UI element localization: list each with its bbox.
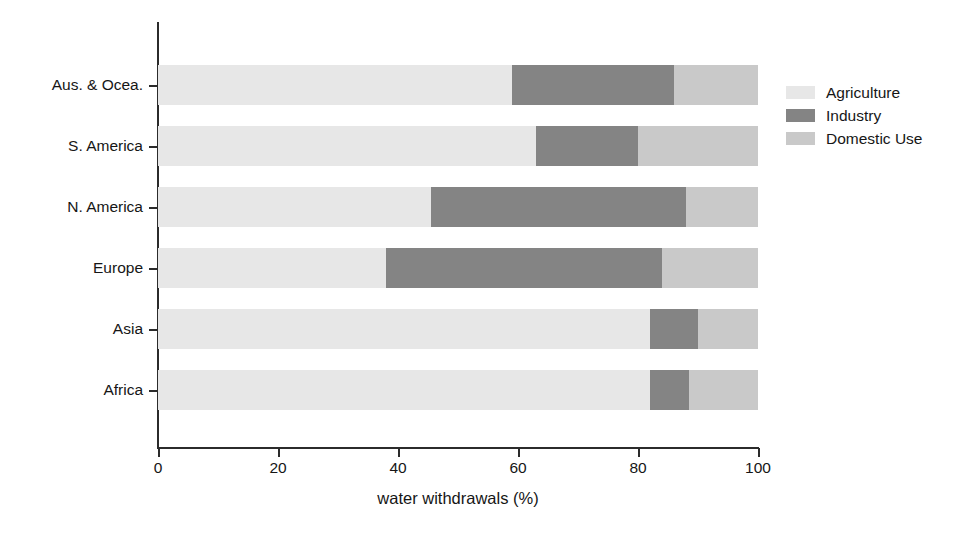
domestic-use-segment bbox=[674, 65, 758, 105]
y-axis-tick-label: S. America bbox=[0, 138, 143, 154]
legend-item: Domestic Use bbox=[786, 128, 922, 149]
domestic-use-segment bbox=[662, 248, 758, 288]
y-axis-tick-label: N. America bbox=[0, 199, 143, 215]
bar-row bbox=[158, 370, 758, 410]
agriculture-segment bbox=[158, 65, 512, 105]
water-withdrawals-chart: 020406080100 water withdrawals (%) Agric… bbox=[0, 0, 972, 537]
x-axis-tick bbox=[638, 448, 640, 457]
industry-segment bbox=[536, 126, 638, 166]
x-axis-tick-label: 20 bbox=[248, 460, 308, 476]
industry-segment bbox=[650, 370, 689, 410]
x-axis-tick-label: 80 bbox=[608, 460, 668, 476]
legend-label: Agriculture bbox=[826, 85, 900, 101]
industry-segment bbox=[512, 65, 674, 105]
legend-item: Industry bbox=[786, 105, 922, 126]
x-axis-title: water withdrawals (%) bbox=[158, 489, 758, 508]
domestic-use-segment bbox=[686, 187, 758, 227]
y-axis-tick-label: Europe bbox=[0, 260, 143, 276]
legend-item: Agriculture bbox=[786, 82, 922, 103]
industry-swatch bbox=[786, 109, 815, 122]
agriculture-segment bbox=[158, 370, 650, 410]
legend-label: Domestic Use bbox=[826, 131, 922, 147]
agriculture-segment bbox=[158, 248, 386, 288]
x-axis-tick bbox=[518, 448, 520, 457]
x-axis-tick-label: 100 bbox=[728, 460, 788, 476]
y-axis-tick-label: Asia bbox=[0, 321, 143, 337]
y-axis-tick-label: Africa bbox=[0, 382, 143, 398]
y-axis-tick bbox=[149, 85, 158, 87]
agriculture-segment bbox=[158, 309, 650, 349]
y-axis-tick-label: Aus. & Ocea. bbox=[0, 77, 143, 93]
y-axis-tick bbox=[149, 268, 158, 270]
agriculture-segment bbox=[158, 126, 536, 166]
domestic-use-segment bbox=[638, 126, 758, 166]
x-axis-tick bbox=[158, 448, 160, 457]
bar-row bbox=[158, 65, 758, 105]
x-axis-tick bbox=[398, 448, 400, 457]
y-axis-tick bbox=[149, 207, 158, 209]
bar-row bbox=[158, 187, 758, 227]
agriculture-swatch bbox=[786, 86, 815, 99]
domestic-use-swatch bbox=[786, 132, 815, 145]
y-axis-tick bbox=[149, 146, 158, 148]
industry-segment bbox=[431, 187, 686, 227]
bar-row bbox=[158, 126, 758, 166]
domestic-use-segment bbox=[698, 309, 758, 349]
bar-row bbox=[158, 248, 758, 288]
domestic-use-segment bbox=[689, 370, 758, 410]
x-axis-tick-label: 0 bbox=[128, 460, 188, 476]
x-axis-tick bbox=[278, 448, 280, 457]
x-axis-tick-label: 40 bbox=[368, 460, 428, 476]
x-axis-tick-label: 60 bbox=[488, 460, 548, 476]
chart-legend: AgricultureIndustryDomestic Use bbox=[786, 82, 922, 151]
plot-area bbox=[158, 22, 758, 448]
bar-row bbox=[158, 309, 758, 349]
legend-label: Industry bbox=[826, 108, 881, 124]
x-axis-tick bbox=[758, 448, 760, 457]
agriculture-segment bbox=[158, 187, 431, 227]
industry-segment bbox=[650, 309, 698, 349]
y-axis-tick bbox=[149, 390, 158, 392]
industry-segment bbox=[386, 248, 662, 288]
y-axis-tick bbox=[149, 329, 158, 331]
